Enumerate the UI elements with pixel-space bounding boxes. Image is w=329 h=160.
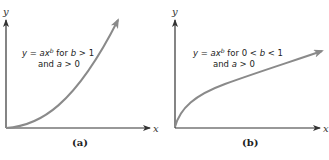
equation-line-2: and a > 0 — [38, 59, 80, 69]
panel-b: y x y = axb for 0 < b < 1 and a > 0 (b) — [171, 6, 329, 148]
panel-label-a: (a) — [72, 137, 88, 148]
equation-line-2: and a > 0 — [213, 59, 255, 69]
panel-label-b: (b) — [242, 137, 258, 148]
y-axis-label: y — [171, 6, 178, 17]
y-axis-label: y — [2, 6, 9, 17]
x-axis-label: x — [323, 123, 329, 134]
panel-a: y x y = axb for b > 1 and a > 0 (a) — [2, 6, 159, 148]
equation-line-1: y = axb for 0 < b < 1 — [192, 47, 283, 58]
x-axis-label: x — [153, 123, 159, 134]
figure: y x y = axb for b > 1 and a > 0 (a) y x … — [0, 0, 329, 160]
equation-line-1: y = axb for b > 1 — [21, 47, 94, 58]
power-curve-b-gt-1 — [6, 20, 118, 128]
